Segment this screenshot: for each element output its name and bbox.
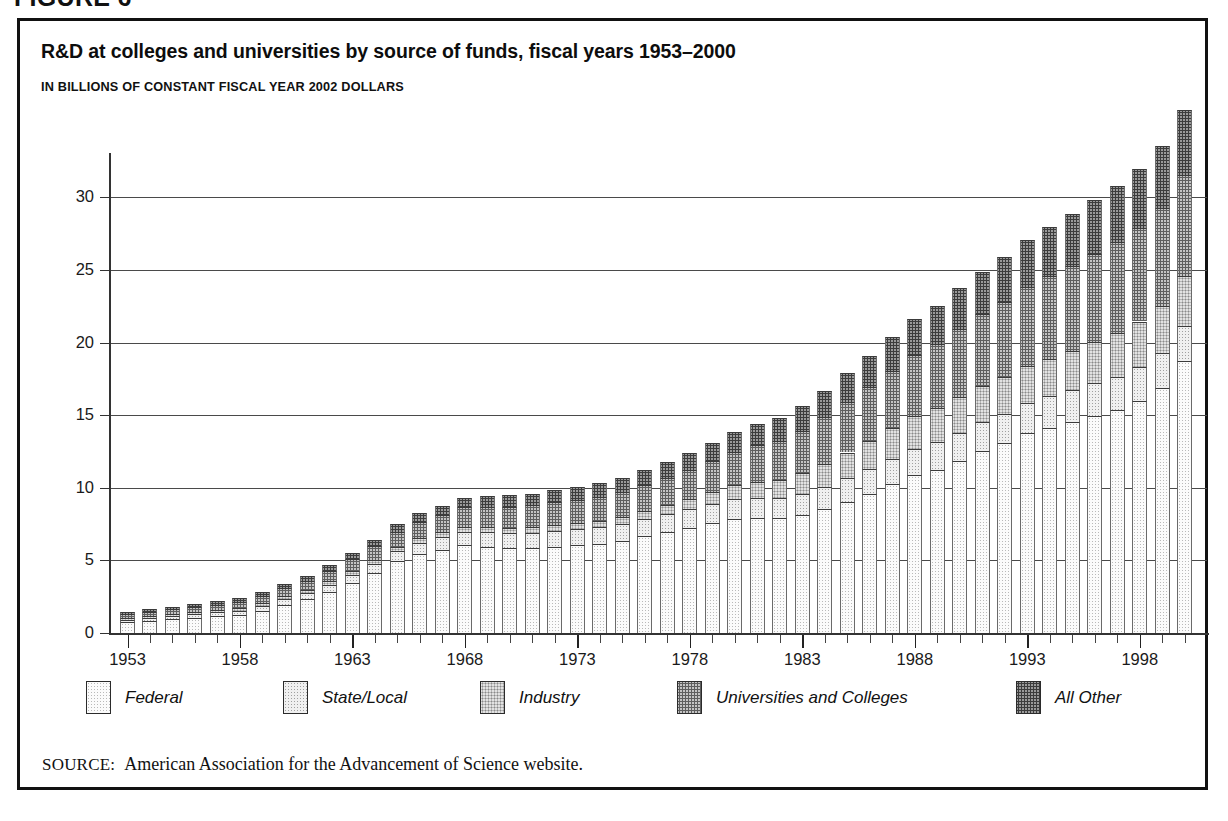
legend-item-state-local[interactable]: State/Local: [283, 681, 407, 714]
legend-item-industry[interactable]: Industry: [480, 681, 579, 714]
bar-segment-2000-universities-and-colleges: [1177, 175, 1192, 276]
bar-1990: [952, 288, 967, 633]
bar-segment-1986-all-other: [862, 356, 877, 387]
bar-segment-1965-industry: [390, 547, 405, 551]
x-tick-1995: [1072, 635, 1073, 643]
bar-1957: [210, 601, 225, 633]
bar-1974: [592, 483, 607, 633]
bar-segment-1964-industry: [367, 560, 382, 564]
x-tick-1999: [1162, 635, 1163, 643]
bar-segment-1983-all-other: [795, 406, 810, 431]
x-tick-1984: [825, 635, 826, 643]
bar-segment-1990-universities-and-colleges: [952, 329, 967, 397]
bar-segment-1967-state-local: [435, 537, 450, 549]
bar-segment-1966-universities-and-colleges: [412, 522, 427, 538]
x-axis-label-1993: 1993: [1009, 650, 1046, 669]
bar-segment-1977-industry: [660, 505, 675, 514]
legend-item-universities-and-colleges[interactable]: Universities and Colleges: [677, 681, 908, 714]
x-tick-1959: [262, 635, 263, 643]
bars-layer: [109, 161, 1209, 633]
bar-segment-1980-all-other: [727, 432, 742, 452]
bar-segment-1988-state-local: [907, 449, 922, 475]
bar-segment-1953-federal: [120, 622, 135, 633]
bar-segment-1986-federal: [862, 494, 877, 633]
bar-segment-1965-all-other: [390, 524, 405, 532]
bar-segment-1978-federal: [682, 528, 697, 633]
bar-segment-1988-industry: [907, 416, 922, 449]
y-tick-5: [100, 560, 109, 561]
bar-segment-1955-federal: [165, 619, 180, 633]
chart-legend: FederalState/LocalIndustryUniversities a…: [86, 681, 1136, 725]
bar-segment-1968-state-local: [457, 532, 472, 545]
bar-segment-1953-all-other: [120, 612, 135, 614]
x-axis-label-1988: 1988: [896, 650, 933, 669]
y-tick-15: [100, 415, 109, 416]
bar-segment-1994-universities-and-colleges: [1042, 276, 1057, 358]
bar-segment-1970-all-other: [502, 495, 517, 506]
x-tick-1992: [1005, 635, 1006, 643]
legend-item-all-other[interactable]: All Other: [1016, 681, 1121, 714]
bar-1956: [187, 604, 202, 633]
bar-1984: [817, 391, 832, 633]
bar-segment-1960-universities-and-colleges: [277, 588, 292, 596]
x-tick-1972: [555, 635, 556, 643]
bar-segment-1975-state-local: [615, 524, 630, 541]
legend-swatch-state-local: [283, 681, 308, 714]
bar-segment-1999-universities-and-colleges: [1155, 208, 1170, 305]
bar-segment-1998-federal: [1132, 401, 1147, 633]
source-divider: [41, 744, 1187, 745]
bar-segment-1964-federal: [367, 573, 382, 633]
bar-segment-1983-industry: [795, 473, 810, 494]
bar-segment-2000-industry: [1177, 276, 1192, 326]
x-tick-1994: [1050, 635, 1051, 643]
bar-segment-1994-all-other: [1042, 227, 1057, 276]
bar-segment-1999-industry: [1155, 306, 1170, 354]
bar-segment-1954-all-other: [142, 609, 157, 611]
bar-segment-1983-universities-and-colleges: [795, 431, 810, 473]
x-tick-1966: [420, 635, 421, 643]
bar-segment-1971-industry: [525, 527, 540, 533]
bar-segment-1986-universities-and-colleges: [862, 387, 877, 441]
bar-segment-1963-industry: [345, 571, 360, 575]
bar-segment-1997-universities-and-colleges: [1110, 242, 1125, 333]
bar-segment-1976-federal: [637, 536, 652, 633]
bar-1982: [772, 418, 787, 633]
bar-segment-1980-industry: [727, 485, 742, 499]
x-axis-label-1963: 1963: [334, 650, 371, 669]
bar-segment-1994-industry: [1042, 359, 1057, 397]
bar-segment-1968-all-other: [457, 498, 472, 508]
bar-segment-1998-state-local: [1132, 367, 1147, 401]
bar-1987: [885, 337, 900, 633]
x-tick-1961: [307, 635, 308, 643]
bar-segment-1965-state-local: [390, 551, 405, 561]
bar-segment-1958-federal: [232, 615, 247, 633]
bar-segment-1992-universities-and-colleges: [997, 302, 1012, 378]
bar-segment-1986-industry: [862, 441, 877, 469]
bar-segment-1985-state-local: [840, 478, 855, 501]
bar-1994: [1042, 227, 1057, 633]
bar-segment-1964-all-other: [367, 540, 382, 547]
x-tick-1974: [600, 635, 601, 643]
bar-1995: [1065, 214, 1080, 633]
bar-segment-1961-federal: [300, 599, 315, 633]
bar-segment-1990-industry: [952, 397, 967, 433]
legend-item-federal[interactable]: Federal: [86, 681, 183, 714]
bar-segment-1974-federal: [592, 544, 607, 633]
bar-1954: [142, 609, 157, 633]
bar-segment-1971-all-other: [525, 494, 540, 506]
plot-area: 051015202530 195319581963196819731978198…: [109, 161, 1209, 635]
bar-segment-1984-state-local: [817, 487, 832, 509]
legend-swatch-universities-and-colleges: [677, 681, 702, 714]
bar-segment-1967-universities-and-colleges: [435, 515, 450, 533]
bar-1986: [862, 356, 877, 633]
x-axis-label-1978: 1978: [672, 650, 709, 669]
bar-segment-1996-universities-and-colleges: [1087, 254, 1102, 342]
bar-segment-1961-all-other: [300, 576, 315, 581]
bar-segment-1955-industry: [165, 614, 180, 616]
x-tick-1971: [532, 635, 533, 643]
legend-label-all-other: All Other: [1055, 688, 1121, 708]
bar-segment-1968-federal: [457, 545, 472, 633]
bar-segment-1973-state-local: [570, 529, 585, 545]
bar-segment-1990-state-local: [952, 433, 967, 461]
bar-segment-1957-industry: [210, 610, 225, 612]
